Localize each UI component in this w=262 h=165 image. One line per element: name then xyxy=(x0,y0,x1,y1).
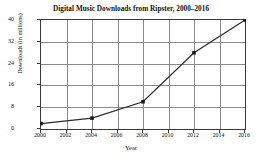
chart-title: Digital Music Downloads from Ripster, 20… xyxy=(0,5,262,13)
y-axis-tick-mark xyxy=(37,128,40,129)
y-axis-tick-label: 40 xyxy=(0,16,14,22)
y-axis-label: Downloads (in millions) xyxy=(16,0,23,99)
x-axis-tick-mark xyxy=(91,130,92,133)
x-axis-tick-mark xyxy=(219,130,220,133)
data-point-marker xyxy=(40,122,43,126)
y-axis-tick-mark xyxy=(37,63,40,64)
data-line xyxy=(41,20,245,124)
data-point-marker xyxy=(90,116,94,120)
y-axis-tick-mark xyxy=(37,19,40,20)
y-axis-tick-label: 32 xyxy=(0,38,14,44)
y-axis-tick-mark xyxy=(37,84,40,85)
y-axis-tick-label: 0 xyxy=(0,125,14,131)
y-axis-tick-mark xyxy=(37,41,40,42)
y-axis-tick-label: 16 xyxy=(0,81,14,87)
x-axis-tick-mark xyxy=(168,130,169,133)
x-axis-tick-mark xyxy=(193,130,194,133)
x-axis-tick-mark xyxy=(40,130,41,133)
x-axis-tick-mark xyxy=(244,130,245,133)
y-axis-tick-label: 8 xyxy=(0,103,14,109)
data-point-marker xyxy=(141,100,145,104)
x-axis-label: Year xyxy=(0,144,262,151)
data-point-marker xyxy=(192,51,196,55)
chart-container: Digital Music Downloads from Ripster, 20… xyxy=(0,0,262,165)
y-axis-tick-label: 24 xyxy=(0,60,14,66)
x-axis-tick-mark xyxy=(66,130,67,133)
data-series-layer xyxy=(40,19,246,130)
data-point-marker xyxy=(243,19,246,22)
x-axis-tick-mark xyxy=(142,130,143,133)
y-axis-tick-mark xyxy=(37,106,40,107)
x-axis-tick-mark xyxy=(117,130,118,133)
